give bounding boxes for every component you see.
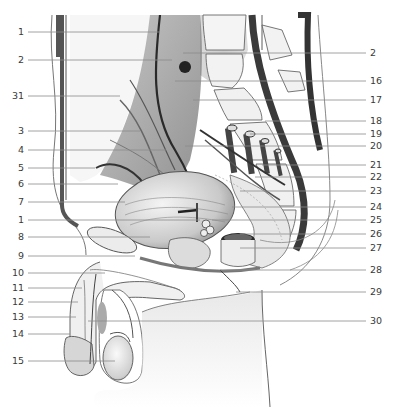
callout-label-right: 23 <box>370 186 393 196</box>
callout-label-right: 24 <box>370 202 393 212</box>
iliac-vessel-lumen <box>179 61 191 73</box>
callout-label-left: 3 <box>0 126 24 136</box>
callout-label-right: 26 <box>370 229 393 239</box>
callout-label-left: 2 <box>0 55 24 65</box>
callout-label-right: 16 <box>370 76 393 86</box>
callout-label-right: 17 <box>370 95 393 105</box>
callout-label-left: 12 <box>0 297 24 307</box>
callout-label-right: 20 <box>370 141 393 151</box>
callout-label-left: 15 <box>0 356 24 366</box>
callout-label-right: 30 <box>370 316 393 326</box>
prostate <box>168 238 210 269</box>
callout-label-right: 18 <box>370 116 393 126</box>
callout-label-right: 29 <box>370 287 393 297</box>
callout-label-left: 14 <box>0 329 24 339</box>
callout-label-right: 21 <box>370 160 393 170</box>
callout-label-left: 1 <box>0 27 24 37</box>
callout-label-left: 13 <box>0 312 24 322</box>
callout-label-left: 11 <box>0 283 24 293</box>
callout-label-right: 19 <box>370 129 393 139</box>
callout-label-left: 5 <box>0 163 24 173</box>
callout-label-left: 31 <box>0 91 24 101</box>
anatomy-drawing <box>0 0 393 407</box>
callout-label-left: 8 <box>0 232 24 242</box>
callout-label-left: 6 <box>0 179 24 189</box>
callout-label-right: 27 <box>370 243 393 253</box>
callout-label-right: 25 <box>370 215 393 225</box>
callout-label-left: 1 <box>0 215 24 225</box>
callout-label-left: 4 <box>0 145 24 155</box>
scrotum <box>97 290 143 383</box>
callout-label-right: 22 <box>370 172 393 182</box>
callout-label-right: 28 <box>370 265 393 275</box>
pelvis-sagittal-illustration: 1231345671891011121314152161718192021222… <box>0 0 393 407</box>
callout-label-right: 2 <box>370 48 393 58</box>
callout-label-left: 10 <box>0 268 24 278</box>
callout-label-left: 9 <box>0 251 24 261</box>
anal-canal <box>221 233 255 267</box>
callout-label-left: 7 <box>0 197 24 207</box>
